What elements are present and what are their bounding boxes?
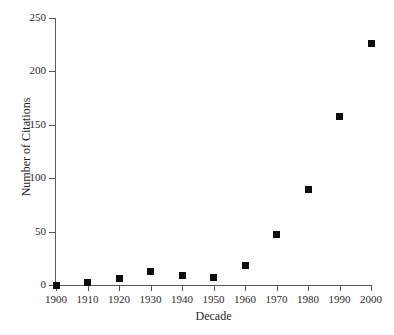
x-tick-mark	[277, 285, 278, 291]
data-point	[368, 40, 375, 47]
x-tick-mark	[119, 285, 120, 291]
citations-scatter-chart: 050100150200250 190019101920193019401950…	[0, 0, 394, 335]
y-axis-title: Number of Citations	[19, 67, 33, 227]
y-tick-mark	[49, 71, 55, 72]
y-tick-label: 0	[4, 279, 46, 290]
y-tick-mark	[49, 178, 55, 179]
data-point	[147, 268, 154, 275]
y-tick-mark	[49, 125, 55, 126]
y-tick-label: 50	[4, 226, 46, 237]
x-tick-mark	[151, 285, 152, 291]
data-point	[273, 231, 280, 238]
data-point	[210, 274, 217, 281]
y-tick-label: 250	[4, 12, 46, 23]
x-tick-mark	[308, 285, 309, 291]
x-axis-title: Decade	[55, 309, 372, 323]
data-point	[336, 113, 343, 120]
x-tick-mark	[214, 285, 215, 291]
x-tick-mark	[340, 285, 341, 291]
data-point	[179, 272, 186, 279]
data-point	[116, 275, 123, 282]
data-point	[53, 282, 60, 289]
data-point	[242, 262, 249, 269]
plot-area: 050100150200250 190019101920193019401950…	[0, 0, 394, 335]
data-point	[305, 186, 312, 193]
x-tick-mark	[245, 285, 246, 291]
y-tick-mark	[49, 18, 55, 19]
x-tick-mark	[371, 285, 372, 291]
data-point	[84, 279, 91, 286]
y-tick-mark	[49, 232, 55, 233]
x-tick-label: 2000	[349, 293, 393, 305]
y-axis-line	[55, 18, 56, 286]
x-tick-mark	[182, 285, 183, 291]
